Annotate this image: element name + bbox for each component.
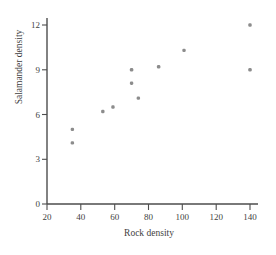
x-tick-marks — [47, 204, 250, 210]
x-tick-label-140: 140 — [237, 212, 263, 222]
data-point — [130, 68, 133, 71]
data-point — [111, 105, 114, 108]
y-axis-title: Salamander density — [14, 0, 24, 142]
x-tick-label-80: 80 — [136, 212, 162, 222]
y-tick-label-0: 0 — [18, 199, 40, 209]
x-tick-label-120: 120 — [203, 212, 229, 222]
data-point — [157, 65, 160, 68]
data-point-series — [71, 23, 252, 144]
data-point — [71, 141, 74, 144]
x-tick-label-100: 100 — [169, 212, 195, 222]
data-point — [137, 96, 140, 99]
y-tick-marks — [42, 25, 47, 204]
x-tick-label-60: 60 — [102, 212, 128, 222]
x-tick-label-40: 40 — [68, 212, 94, 222]
x-axis-title: Rock density — [47, 228, 251, 238]
data-point — [182, 49, 185, 52]
scatter-plot-figure: 12 9 6 3 0 20 40 60 80 100 120 140 Salam… — [0, 0, 276, 255]
y-tick-label-3: 3 — [18, 154, 40, 164]
data-point — [101, 110, 104, 113]
data-point — [130, 81, 133, 84]
data-point — [248, 23, 251, 26]
x-tick-label-20: 20 — [34, 212, 60, 222]
data-point — [71, 128, 74, 131]
axes-group — [47, 18, 258, 204]
data-point — [248, 68, 251, 71]
